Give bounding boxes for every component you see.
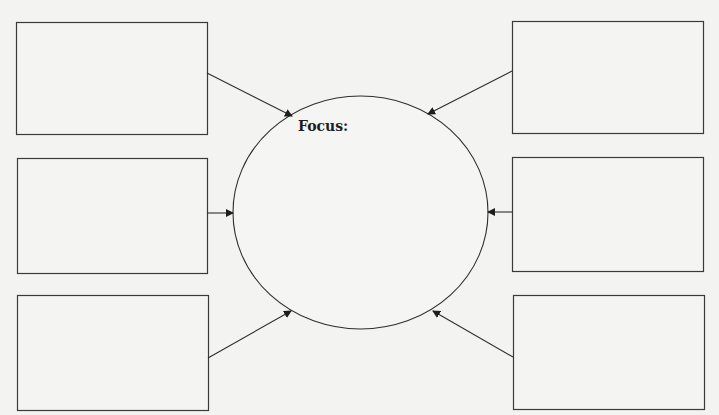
focus-ellipse[interactable]: Focus:: [233, 96, 488, 329]
focus-label: Focus:: [298, 118, 348, 134]
arrow-top-left: [207, 73, 292, 116]
box-top-right[interactable]: [513, 22, 704, 134]
arrow-top-right: [428, 71, 512, 114]
concept-map-diagram: Focus:: [0, 0, 719, 415]
arrow-bottom-right: [433, 311, 513, 357]
arrow-bottom-left: [208, 311, 291, 358]
box-bottom-left[interactable]: [18, 296, 209, 411]
box-middle-left[interactable]: [18, 159, 208, 274]
box-middle-right[interactable]: [513, 158, 704, 272]
box-top-left[interactable]: [17, 23, 208, 135]
box-bottom-right[interactable]: [514, 296, 705, 410]
